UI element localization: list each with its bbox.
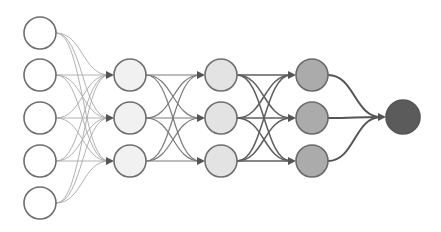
arrowhead-icon — [288, 114, 296, 122]
arrowhead-icon — [288, 157, 296, 165]
node-input-4 — [24, 187, 56, 219]
arrowhead-icon — [288, 71, 296, 79]
edge-input-4-to-hidden-1-2 — [56, 161, 109, 203]
node-hidden-2-1 — [205, 102, 237, 134]
edge-input-0-to-hidden-1-0 — [56, 33, 109, 75]
arrowhead-icon — [197, 71, 205, 79]
arrowhead-icon — [197, 114, 205, 122]
arrowhead-icon — [197, 157, 205, 165]
node-input-3 — [24, 145, 56, 177]
node-hidden-1-2 — [114, 145, 146, 177]
node-input-1 — [24, 59, 56, 91]
node-input-2 — [24, 102, 56, 134]
arrowhead-icon — [106, 114, 114, 122]
node-hidden-2-2 — [205, 145, 237, 177]
node-hidden-3-2 — [296, 145, 328, 177]
edge-hidden-3-0-to-output-0 — [328, 75, 381, 117]
edge-hidden-1-1-to-hidden-2-0 — [146, 75, 200, 118]
node-hidden-1-1 — [114, 102, 146, 134]
arrowhead-icon — [106, 157, 114, 165]
arrowhead-icon — [378, 113, 386, 121]
edge-hidden-1-2-to-hidden-2-1 — [146, 118, 200, 161]
node-hidden-3-1 — [296, 102, 328, 134]
node-hidden-3-0 — [296, 59, 328, 91]
node-input-0 — [24, 17, 56, 49]
edge-input-0-to-hidden-1-1 — [56, 33, 109, 118]
edge-input-4-to-hidden-1-0 — [56, 75, 109, 203]
edge-input-2-to-hidden-1-0 — [56, 75, 109, 118]
edge-hidden-3-2-to-output-0 — [328, 117, 381, 161]
arrowhead-icon — [106, 71, 114, 79]
node-hidden-1-0 — [114, 59, 146, 91]
neural-network-diagram — [0, 0, 441, 232]
node-hidden-2-0 — [205, 59, 237, 91]
edge-hidden-2-1-to-hidden-3-0 — [237, 75, 291, 118]
edge-hidden-2-2-to-hidden-3-1 — [237, 118, 291, 161]
node-output-0 — [386, 100, 420, 134]
edge-input-4-to-hidden-1-1 — [56, 118, 109, 203]
